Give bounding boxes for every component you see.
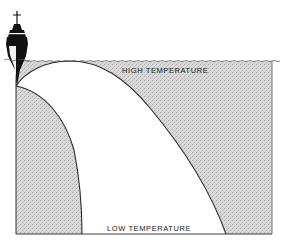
sound-ray-diagram <box>0 0 281 246</box>
high-temperature-label: HIGH TEMPERATURE <box>122 66 208 75</box>
shadow-zone-lower <box>16 86 82 234</box>
low-temperature-label: LOW TEMPERATURE <box>107 224 191 233</box>
